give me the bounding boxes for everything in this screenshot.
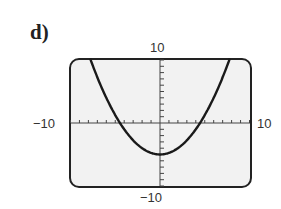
- calculator-screen: [0, 0, 281, 209]
- x-min-label: −10: [33, 116, 55, 131]
- y-min-label: −10: [140, 190, 162, 205]
- y-max-label: 10: [150, 40, 164, 55]
- x-max-label: 10: [257, 116, 271, 131]
